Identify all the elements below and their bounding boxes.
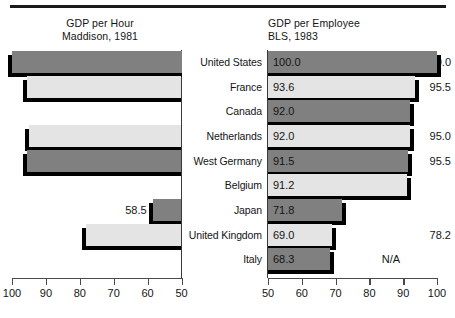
country-label: Netherlands [186, 125, 262, 147]
country-label: Belgium [186, 174, 262, 196]
left-bar-japan [153, 199, 182, 221]
left-bar-west-germany [27, 150, 181, 172]
right-bar-value: 100.0 [273, 51, 301, 73]
right-panel-axis-line [268, 278, 437, 279]
chart-row: 100.0United States100.0 [0, 50, 455, 75]
chart-row: 95.5West Germany91.5 [0, 149, 455, 174]
chart-row: N/ACanada92.0 [0, 99, 455, 124]
chart-rows: 100.0United States100.095.5France93.6N/A… [0, 50, 455, 272]
left-bar-united-states [12, 51, 182, 73]
left-bar-france [27, 76, 181, 98]
right-panel-axis-tick-label: 100 [422, 287, 452, 299]
left-panel-axis-tick [182, 278, 183, 285]
country-label: Canada [186, 100, 262, 122]
right-panel-title: GDP per Employee BLS, 1983 [268, 17, 360, 43]
left-bar-value: N/A [331, 248, 451, 270]
right-bar-value: 92.0 [273, 125, 294, 147]
left-bar-netherlands [29, 125, 182, 147]
left-panel-axis: 1009080706050 [0, 278, 200, 312]
chart-row: 95.0Netherlands92.0 [0, 124, 455, 149]
chart-row: N/AItaly68.3 [0, 247, 455, 272]
right-bar-value: 71.8 [273, 199, 294, 221]
left-bar-value: 58.5 [87, 199, 147, 221]
left-panel-axis-tick-label: 90 [31, 287, 61, 299]
country-label: France [186, 76, 262, 98]
right-bar-value: 92.0 [273, 100, 294, 122]
left-panel-axis-tick-label: 70 [99, 287, 129, 299]
right-panel-axis-tick-label: 60 [287, 287, 317, 299]
right-panel-axis-tick-label: 90 [388, 287, 418, 299]
right-panel-title-line1: GDP per Employee [268, 17, 360, 29]
right-panel-title-line2: BLS, 1983 [268, 30, 360, 43]
country-label: United Kingdom [186, 224, 262, 246]
left-panel-axis-tick [148, 278, 149, 285]
left-panel-title-line1: GDP per Hour [66, 17, 134, 29]
chart-row: 78.2United Kingdom69.0 [0, 223, 455, 248]
left-panel-axis-tick-label: 50 [167, 287, 197, 299]
right-panel-axis-tick-label: 80 [354, 287, 384, 299]
right-panel-axis-tick-label: 50 [253, 287, 283, 299]
chart-container: GDP per Hour Maddison, 1981 GDP per Empl… [0, 0, 455, 318]
left-panel-axis-line [12, 278, 182, 279]
chart-row: 95.5France93.6 [0, 75, 455, 100]
left-bar-united-kingdom [86, 224, 182, 246]
right-panel-axis-tick [437, 278, 438, 285]
left-panel-axis-tick-label: 60 [133, 287, 163, 299]
left-panel-title: GDP per Hour Maddison, 1981 [18, 17, 182, 43]
right-panel-axis: 5060708090100 [255, 278, 455, 312]
right-panel-axis-tick [268, 278, 269, 285]
right-bar-value: 91.2 [273, 174, 294, 196]
right-bar-value: 69.0 [273, 224, 294, 246]
chart-row: 58.5Japan71.8 [0, 198, 455, 223]
country-label: West Germany [186, 150, 262, 172]
right-panel-axis-tick [369, 278, 370, 285]
left-panel-axis-tick-label: 80 [65, 287, 95, 299]
chart-row: N/ABelgium91.2 [0, 173, 455, 198]
right-panel-axis-tick-label: 70 [321, 287, 351, 299]
right-bar-value: 93.6 [273, 76, 294, 98]
right-bar-value: 91.5 [273, 150, 294, 172]
country-label: Japan [186, 199, 262, 221]
left-panel-axis-tick [12, 278, 13, 285]
left-panel-axis-tick [46, 278, 47, 285]
right-bar-value: 68.3 [273, 248, 294, 270]
right-panel-axis-tick [336, 278, 337, 285]
left-panel-axis-tick [114, 278, 115, 285]
left-panel-axis-tick [80, 278, 81, 285]
left-panel-title-line2: Maddison, 1981 [18, 30, 182, 43]
right-panel-axis-tick [302, 278, 303, 285]
left-bar-value: 78.2 [331, 224, 451, 246]
country-label: Italy [186, 248, 262, 270]
left-panel-axis-tick-label: 100 [0, 287, 27, 299]
country-label: United States [186, 51, 262, 73]
right-panel-axis-tick [403, 278, 404, 285]
top-divider-rule [10, 5, 446, 8]
